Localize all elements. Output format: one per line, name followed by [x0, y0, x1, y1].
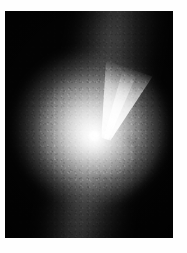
image-caption	[5, 240, 173, 251]
image-canvas	[0, 0, 187, 253]
nucleus-core	[88, 130, 101, 142]
astronomical-photograph	[5, 11, 173, 238]
